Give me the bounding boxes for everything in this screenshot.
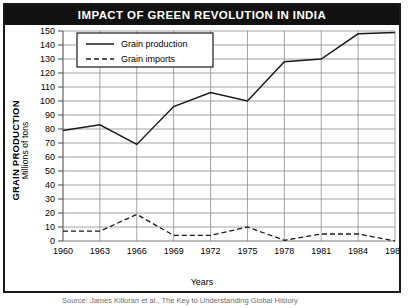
y-tick-label: 50: [45, 166, 55, 176]
plot-area: 0102030405060708090100110120130140150 19…: [33, 25, 397, 259]
x-tick-label: 1984: [348, 246, 368, 256]
y-axis-ticks: 0102030405060708090100110120130140150: [40, 26, 63, 246]
y-tick-label: 130: [40, 54, 55, 64]
chart-title-bar: IMPACT OF GREEN REVOLUTION IN INDIA: [5, 5, 399, 25]
legend-label: Grain production: [121, 39, 188, 49]
x-tick-label: 1960: [53, 246, 73, 256]
y-axis-title: GRAIN PRODUCTION Millions of tons: [7, 25, 33, 275]
y-axis-title-sub: Millions of tons: [21, 100, 30, 200]
y-tick-label: 20: [45, 208, 55, 218]
y-tick-label: 40: [45, 180, 55, 190]
x-tick-label: 1966: [127, 246, 147, 256]
x-tick-label: 1975: [237, 246, 257, 256]
source-caption: Source: James Killoran et al., The Key t…: [62, 296, 410, 305]
y-tick-label: 100: [40, 96, 55, 106]
y-tick-label: 0: [50, 236, 55, 246]
y-tick-label: 30: [45, 194, 55, 204]
x-tick-label: 1987: [385, 246, 401, 256]
x-tick-label: 1963: [90, 246, 110, 256]
x-axis-ticks: 1960196319661969197219751978198119841987: [53, 246, 401, 256]
x-tick-label: 1972: [201, 246, 221, 256]
series-line: [63, 214, 395, 241]
y-tick-label: 140: [40, 40, 55, 50]
page-title: IMPACT OF GREEN REVOLUTION IN INDIA: [78, 9, 326, 21]
y-tick-label: 60: [45, 152, 55, 162]
y-tick-label: 70: [45, 138, 55, 148]
y-tick-label: 90: [45, 110, 55, 120]
chart-legend: Grain productionGrain imports: [77, 33, 213, 67]
y-tick-label: 80: [45, 124, 55, 134]
x-tick-label: 1981: [311, 246, 331, 256]
x-tick-label: 1969: [164, 246, 184, 256]
y-tick-label: 150: [40, 26, 55, 36]
x-axis-title: Years: [5, 277, 399, 287]
line-chart: 0102030405060708090100110120130140150 19…: [33, 25, 401, 263]
y-tick-label: 10: [45, 222, 55, 232]
legend-label: Grain imports: [121, 54, 176, 64]
y-tick-label: 110: [41, 82, 55, 92]
y-tick-label: 120: [40, 68, 55, 78]
chart-figure: IMPACT OF GREEN REVOLUTION IN INDIA GRAI…: [3, 3, 401, 293]
x-tick-label: 1978: [274, 246, 294, 256]
